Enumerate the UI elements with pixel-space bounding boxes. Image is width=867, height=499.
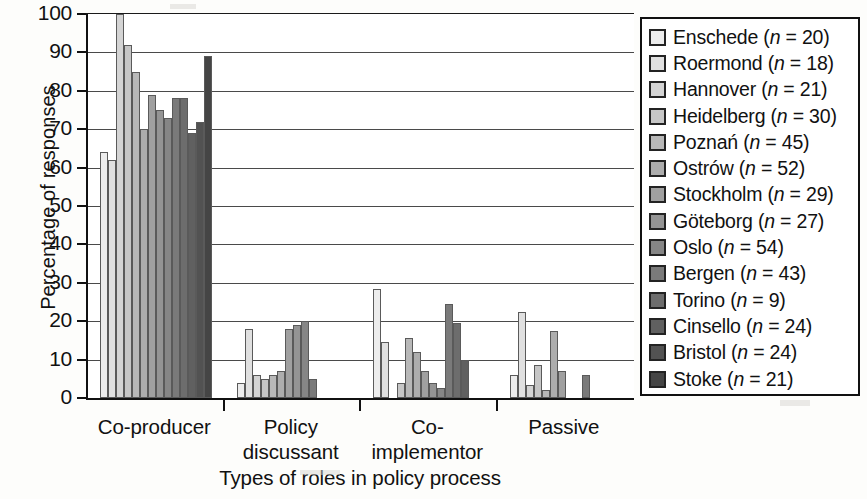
y-tick-label: 0 <box>8 385 72 409</box>
bar <box>437 388 445 398</box>
legend-item[interactable]: Hannover (n = 21) <box>649 77 858 103</box>
bar <box>558 371 566 398</box>
legend-item[interactable]: Bristol (n = 24) <box>649 340 858 366</box>
bar <box>253 375 261 398</box>
legend-item[interactable]: Heidelberg (n = 30) <box>649 103 858 129</box>
bar <box>108 160 116 398</box>
legend-label: Bergen (n = 43) <box>673 262 806 285</box>
bar <box>245 329 253 398</box>
legend-item[interactable]: Göteborg (n = 27) <box>649 208 858 234</box>
bar <box>526 385 534 398</box>
bar <box>510 375 518 398</box>
x-tick-mark <box>223 400 225 411</box>
bar <box>277 371 285 398</box>
scan-artifact <box>780 400 810 406</box>
legend-item[interactable]: Roermond (n = 18) <box>649 50 858 76</box>
x-axis-title: Types of roles in policy process <box>86 466 634 490</box>
legend-item[interactable]: Oslo (n = 54) <box>649 234 858 260</box>
bar <box>429 383 437 398</box>
bar <box>293 325 301 398</box>
legend-swatch-icon <box>649 318 666 335</box>
legend-item[interactable]: Bergen (n = 43) <box>649 261 858 287</box>
bar <box>421 371 429 398</box>
legend-label: Hannover (n = 21) <box>673 78 827 101</box>
y-tick-label: 10 <box>8 347 72 371</box>
bar <box>309 379 317 398</box>
x-tick-label: Policy <box>223 414 360 439</box>
bar-group <box>225 14 362 398</box>
legend-label: Cinsello (n = 24) <box>673 315 812 338</box>
y-tick-label: 20 <box>8 308 72 332</box>
legend-item[interactable]: Ostrów (n = 52) <box>649 155 858 181</box>
bar <box>204 56 212 398</box>
legend-label: Enschede (n = 20) <box>673 26 830 49</box>
x-tick-mark <box>496 400 498 411</box>
bar <box>237 383 245 398</box>
legend-item[interactable]: Stockholm (n = 29) <box>649 182 858 208</box>
y-tick-mark <box>77 128 86 130</box>
bar <box>582 375 590 398</box>
x-category-label: Policydiscussant <box>223 414 360 464</box>
x-tick-label: Passive <box>496 414 633 439</box>
plot-area <box>86 14 634 400</box>
y-tick-mark <box>77 167 86 169</box>
legend-item[interactable]: Cinsello (n = 24) <box>649 313 858 339</box>
bar <box>413 352 421 398</box>
legend-swatch-icon <box>649 186 666 203</box>
legend-swatch-icon <box>649 344 666 361</box>
y-tick-mark <box>77 397 86 399</box>
bar <box>461 360 469 398</box>
y-tick-mark <box>77 13 86 15</box>
y-tick-label: 70 <box>8 116 72 140</box>
bar <box>301 321 309 398</box>
legend-swatch-icon <box>649 292 666 309</box>
x-tick-label: Co-implementor <box>359 414 496 464</box>
bar <box>550 331 558 398</box>
y-tick-mark <box>77 205 86 207</box>
y-tick-mark <box>77 282 86 284</box>
legend-item[interactable]: Torino (n = 9) <box>649 287 858 313</box>
y-tick-mark <box>77 359 86 361</box>
bar <box>156 110 164 398</box>
y-tick-mark <box>77 243 86 245</box>
y-tick-mark <box>77 320 86 322</box>
y-tick-label: 40 <box>8 231 72 255</box>
y-tick-mark <box>77 51 86 53</box>
bar <box>172 98 180 398</box>
y-tick-mark <box>77 90 86 92</box>
y-tick-label: 80 <box>8 78 72 102</box>
legend-item[interactable]: Stoke (n = 21) <box>649 366 858 392</box>
legend-item[interactable]: Enschede (n = 20) <box>649 24 858 50</box>
legend-item[interactable]: Poznań (n = 45) <box>649 129 858 155</box>
bar-group <box>498 14 635 398</box>
legend-label: Bristol (n = 24) <box>673 341 797 364</box>
legend-label: Heidelberg (n = 30) <box>673 105 837 128</box>
legend-label: Ostrów (n = 52) <box>673 157 805 180</box>
legend: Enschede (n = 20)Roermond (n = 18)Hannov… <box>640 17 860 396</box>
legend-label: Torino (n = 9) <box>673 289 786 312</box>
scan-artifact <box>170 4 196 9</box>
bar <box>164 118 172 398</box>
bar <box>445 304 453 398</box>
bar <box>261 379 269 398</box>
x-tick-label: discussant <box>223 439 360 464</box>
x-category-label: Co-implementor <box>359 414 496 464</box>
bar-group <box>361 14 498 398</box>
bar-group <box>88 14 225 398</box>
legend-swatch-icon <box>649 29 666 46</box>
bar <box>116 14 124 398</box>
bar <box>188 133 196 398</box>
bar <box>132 72 140 398</box>
bar <box>453 323 461 398</box>
legend-label: Stoke (n = 21) <box>673 368 793 391</box>
x-tick-mark <box>359 400 361 411</box>
bar <box>148 95 156 398</box>
bar <box>269 375 277 398</box>
y-tick-label: 90 <box>8 39 72 63</box>
x-axis: Co-producerPolicydiscussantCo-implemento… <box>86 400 634 460</box>
bar <box>180 98 188 398</box>
legend-label: Oslo (n = 54) <box>673 236 784 259</box>
legend-label: Roermond (n = 18) <box>673 52 834 75</box>
legend-label: Göteborg (n = 27) <box>673 210 824 233</box>
x-category-label: Co-producer <box>86 414 223 439</box>
